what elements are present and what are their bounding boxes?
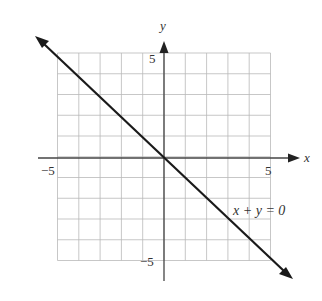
coordinate-plane: x y −5 5 5 −5 x + y = 0 [0, 0, 322, 301]
y-tick-pos5: 5 [149, 51, 156, 66]
x-axis-arrow-icon [288, 154, 300, 163]
labels: x y −5 5 5 −5 x + y = 0 [41, 18, 310, 269]
x-tick-pos5: 5 [265, 163, 272, 178]
x-tick-neg5: −5 [41, 163, 55, 178]
y-axis-label: y [158, 18, 166, 33]
y-axis-arrow-icon [160, 41, 169, 53]
x-axis-label: x [303, 150, 310, 165]
y-tick-neg5: −5 [140, 254, 154, 269]
equation-annotation: x + y = 0 [232, 203, 285, 218]
